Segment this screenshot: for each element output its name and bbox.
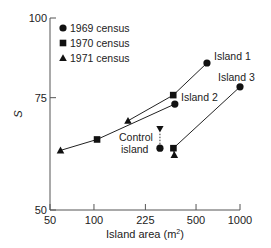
x-tick-label: 50 bbox=[44, 214, 56, 226]
data-point-square-icon bbox=[94, 136, 101, 143]
x-tick-label: 225 bbox=[136, 214, 154, 226]
annotation-control: Control bbox=[119, 131, 153, 143]
annotation-island-1: Island 1 bbox=[214, 50, 251, 62]
y-axis-label: S bbox=[12, 110, 24, 118]
x-tick-label: 100 bbox=[85, 214, 103, 226]
legend-label: 1971 census bbox=[70, 52, 130, 64]
annotation-island: island bbox=[121, 143, 149, 155]
annotation-island-3: Island 3 bbox=[218, 71, 255, 83]
species-area-chart: 5075100501002255001000Island area (m2)S1… bbox=[0, 0, 271, 248]
legend-marker-square-icon bbox=[60, 40, 67, 47]
series-line bbox=[60, 139, 97, 150]
data-point-circle-icon bbox=[236, 83, 243, 90]
legend-label: 1970 census bbox=[70, 37, 130, 49]
plot-area: 5075100501002255001000Island area (m2)S1… bbox=[0, 0, 271, 248]
data-point-triangle-icon bbox=[124, 117, 132, 124]
x-tick-label: 1000 bbox=[228, 214, 252, 226]
legend-label: 1969 census bbox=[70, 22, 130, 34]
data-point-triangle-down-icon bbox=[156, 126, 163, 133]
data-point-circle-icon bbox=[156, 145, 163, 152]
legend-marker-circle-icon bbox=[59, 24, 66, 31]
data-point-triangle-icon bbox=[171, 151, 179, 158]
annotation-island-2: Island 2 bbox=[181, 91, 218, 103]
data-point-circle-icon bbox=[203, 59, 210, 66]
x-tick-label: 500 bbox=[187, 214, 205, 226]
y-tick-label: 100 bbox=[29, 12, 47, 24]
y-tick-label: 75 bbox=[35, 92, 47, 104]
data-point-square-icon bbox=[170, 145, 177, 152]
data-point-circle-icon bbox=[171, 100, 178, 107]
x-axis-label: Island area (m2) bbox=[106, 228, 184, 240]
data-point-square-icon bbox=[170, 92, 177, 99]
legend-marker-triangle-icon bbox=[59, 54, 67, 61]
